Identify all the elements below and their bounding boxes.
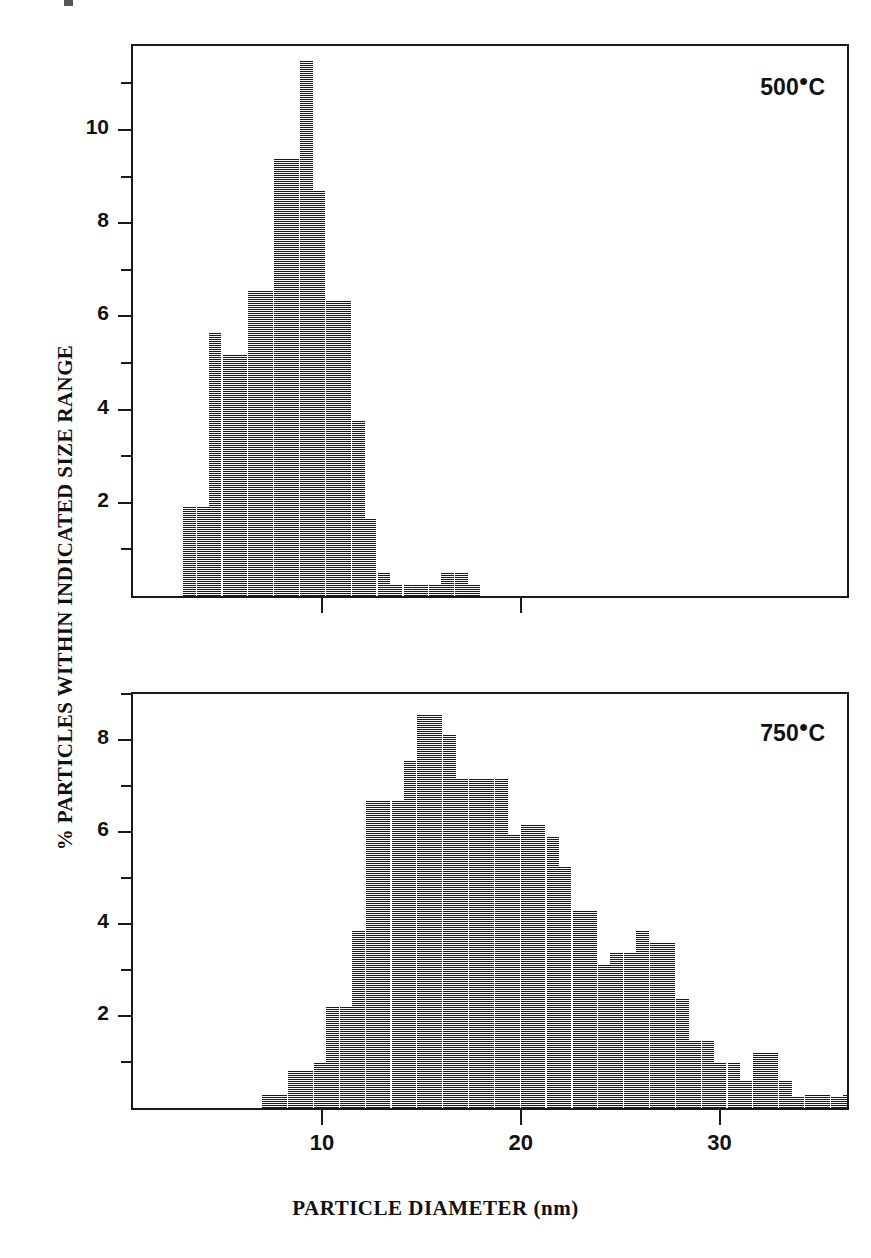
y-axis-tick-label: 6	[53, 817, 109, 841]
histogram-bar	[364, 519, 378, 596]
figure-root: % PARTICLES WITHIN INDICATED SIZE RANGE …	[0, 0, 871, 1258]
histogram-bar	[507, 834, 521, 1108]
x-axis-tick-label: 30	[680, 1130, 760, 1156]
histogram-bar	[404, 761, 418, 1108]
histogram-bar	[235, 354, 249, 596]
y-axis-major-tick	[118, 129, 132, 131]
panel-500c: 500●C	[131, 44, 849, 598]
x-axis-major-tick	[321, 598, 323, 613]
histogram-bar	[415, 584, 429, 596]
panel-label-750c-value: 750	[760, 720, 798, 746]
histogram-bar	[338, 300, 352, 596]
y-axis-major-tick	[118, 739, 132, 741]
degree-icon: ●	[799, 72, 809, 89]
y-axis-tick-label: 10	[53, 115, 109, 139]
histogram-bar	[441, 573, 455, 596]
y-axis-tick-label: 2	[53, 488, 109, 512]
plot-area-top	[133, 46, 847, 596]
x-axis-major-tick	[719, 1110, 721, 1125]
y-axis-tick-label: 2	[53, 1001, 109, 1025]
y-axis-minor-tick	[121, 785, 132, 787]
histogram-bar	[326, 1007, 340, 1108]
panel-label-500c: 500●C	[760, 72, 825, 101]
y-axis-minor-tick	[121, 455, 132, 457]
y-axis-tick-label: 8	[53, 725, 109, 749]
panel-label-500c-value: 500	[760, 74, 798, 100]
histogram-bar	[481, 779, 495, 1108]
y-axis-major-tick	[118, 923, 132, 925]
histogram-bar	[817, 1094, 831, 1108]
y-axis-major-tick	[118, 502, 132, 504]
x-axis-title: PARTICLE DIAMETER (nm)	[0, 1196, 871, 1221]
scan-artifact-speck	[64, 0, 73, 6]
y-axis-major-tick	[118, 409, 132, 411]
y-axis-minor-tick	[121, 176, 132, 178]
y-axis-minor-tick	[121, 1061, 132, 1063]
y-axis-tick-label: 8	[53, 208, 109, 232]
histogram-bar	[378, 800, 392, 1108]
histogram-bar	[740, 1080, 754, 1108]
histogram-bar	[274, 1094, 288, 1108]
histogram-bar	[610, 952, 624, 1108]
panel-label-750c: 750●C	[760, 718, 825, 747]
y-axis-minor-tick	[121, 877, 132, 879]
histogram-bar	[300, 1071, 314, 1108]
histogram-bar	[312, 191, 326, 597]
panel-label-750c-unit: C	[808, 720, 825, 746]
histogram-bar	[791, 1097, 805, 1109]
histogram-bar	[352, 931, 366, 1108]
x-axis-major-tick	[520, 1110, 522, 1125]
y-axis-minor-tick	[121, 548, 132, 550]
histogram-bar	[429, 715, 443, 1108]
plot-area-bottom	[133, 694, 847, 1108]
histogram-bar	[559, 867, 573, 1109]
y-axis-major-tick	[118, 222, 132, 224]
y-axis-minor-tick	[121, 269, 132, 271]
y-axis-major-tick	[118, 315, 132, 317]
panel-750c: 750●C	[131, 692, 849, 1110]
x-axis-major-tick	[321, 1110, 323, 1125]
histogram-bar	[662, 942, 676, 1108]
panel-label-500c-unit: C	[808, 74, 825, 100]
histogram-bar	[765, 1053, 779, 1108]
histogram-bar	[260, 291, 274, 596]
y-axis-major-tick	[118, 1015, 132, 1017]
histogram-bar	[843, 1094, 847, 1108]
y-axis-tick-label: 4	[53, 395, 109, 419]
y-axis-tick-label: 6	[53, 301, 109, 325]
degree-icon: ●	[799, 718, 809, 735]
y-axis-minor-tick	[121, 82, 132, 84]
histogram-bar	[584, 910, 598, 1108]
histogram-bar	[636, 931, 650, 1108]
y-axis-minor-tick	[121, 362, 132, 364]
histogram-bar	[183, 507, 197, 596]
histogram-bar	[688, 1041, 702, 1108]
histogram-bar	[533, 825, 547, 1108]
y-axis-title: % PARTICLES WITHIN INDICATED SIZE RANGE	[53, 248, 78, 948]
y-axis-minor-tick	[121, 969, 132, 971]
y-axis-major-tick	[118, 831, 132, 833]
x-axis-tick-label: 10	[282, 1130, 362, 1156]
histogram-bar	[467, 584, 481, 596]
histogram-bar	[714, 1062, 728, 1108]
y-axis-minor-tick	[121, 693, 132, 695]
histogram-bar	[209, 333, 223, 596]
histogram-bar	[455, 779, 469, 1108]
histogram-bar	[390, 584, 404, 596]
histogram-bar	[286, 158, 300, 596]
x-axis-tick-label: 20	[481, 1130, 561, 1156]
y-axis-tick-label: 4	[53, 909, 109, 933]
x-axis-major-tick	[520, 598, 522, 613]
